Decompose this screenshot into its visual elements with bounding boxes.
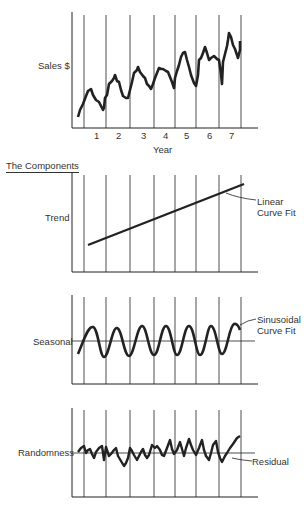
sin-fit-line1: Sinusoidal: [257, 314, 301, 325]
trend-chart: [72, 172, 258, 272]
randomness-axis-label: Randomness: [18, 447, 74, 458]
linear-fit-line1: Linear: [257, 196, 296, 207]
x-tick-4: 4: [163, 130, 168, 141]
sinusoidal-fit-annotation: Sinusoidal Curve Fit: [257, 314, 301, 336]
year-axis-label: Year: [153, 144, 172, 155]
sales-chart: [72, 12, 258, 128]
seasonal-axis-label: Seasonal: [33, 336, 73, 347]
linear-fit-line2: Curve Fit: [257, 207, 296, 218]
trend-axis-label: Trend: [45, 212, 69, 223]
x-tick-6: 6: [207, 130, 212, 141]
seasonal-chart: [72, 295, 258, 384]
sales-axis-label: Sales $: [38, 60, 70, 71]
sin-fit-line2: Curve Fit: [257, 325, 301, 336]
randomness-chart: [72, 408, 258, 497]
x-tick-2: 2: [116, 130, 121, 141]
components-heading: The Components: [6, 160, 79, 173]
residual-annotation: Residual: [252, 456, 289, 467]
linear-fit-annotation: Linear Curve Fit: [257, 196, 296, 218]
x-tick-3: 3: [141, 130, 146, 141]
x-tick-1: 1: [94, 130, 99, 141]
x-tick-7: 7: [229, 130, 234, 141]
x-tick-5: 5: [184, 130, 189, 141]
